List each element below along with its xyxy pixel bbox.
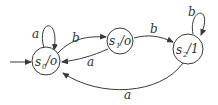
edge-label-s2-s0: a	[124, 88, 131, 102]
svg-text:/o: /o	[45, 54, 57, 68]
edge-label-s0-s0: a	[32, 27, 39, 41]
edge-label-s2-s2: b	[188, 5, 196, 19]
state-diagram: a b a b b a s 0 /o s 1 /o s 2 /1	[0, 0, 218, 105]
svg-text:s: s	[109, 34, 115, 48]
svg-text:/1: /1	[186, 42, 199, 56]
state-s0: s 0 /o	[32, 47, 60, 75]
state-s2: s 2 /1	[173, 34, 203, 64]
svg-text:/o: /o	[119, 34, 131, 48]
state-s1: s 1 /o	[107, 28, 133, 54]
edge-s0-s1	[58, 37, 106, 53]
edge-s1-s0	[62, 49, 108, 62]
edge-s1-s2	[134, 36, 173, 42]
edge-s0-s0	[42, 26, 55, 50]
edge-label-s1-s2: b	[150, 22, 158, 36]
edge-s2-s0	[63, 63, 183, 90]
svg-text:s: s	[35, 55, 41, 69]
edge-label-s0-s1: b	[72, 31, 80, 45]
svg-text:s: s	[176, 43, 182, 57]
edge-label-s1-s0: a	[87, 55, 94, 69]
